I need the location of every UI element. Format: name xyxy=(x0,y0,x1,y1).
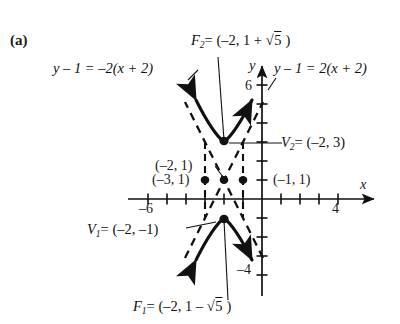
vertex-bottom-dot xyxy=(219,215,228,223)
focus-top-radical: √5 xyxy=(266,32,282,48)
left-point-label: (–3, 1) xyxy=(152,172,189,188)
vertex-bottom-equation: = (–2, –1) xyxy=(101,221,159,237)
y-tick-label-6: 6 xyxy=(245,78,252,94)
vertex-bottom-symbol: V xyxy=(87,221,96,237)
focus-top-equation-post: ) xyxy=(282,32,290,48)
leader-lines xyxy=(186,57,282,300)
focus-top-symbol: F xyxy=(191,32,200,48)
right-aux-dot xyxy=(239,176,248,184)
x-tick-label-4: 4 xyxy=(332,201,339,217)
center-dot xyxy=(220,176,229,184)
y-axis-label: y xyxy=(249,57,255,74)
right-point-label: (–1, 1) xyxy=(273,172,310,188)
focus-bottom-label: F1= (–2, 1 – √5 ) xyxy=(133,299,231,316)
focus-bottom-symbol: F xyxy=(133,298,142,314)
y-axis xyxy=(257,66,268,296)
x-tick-label-neg6: –6 xyxy=(139,201,153,217)
point-markers xyxy=(201,137,248,223)
x-axis-label: x xyxy=(360,176,366,193)
y-tick-label-neg4: –4 xyxy=(237,262,251,278)
focus-bottom-radicand: 5 xyxy=(215,298,223,314)
focus-top-radicand: 5 xyxy=(274,32,282,48)
vertex-top-equation: = (–2, 3) xyxy=(295,134,345,150)
vertex-top-label: V2= (–2, 3) xyxy=(281,135,345,152)
asymptote-right-label: y – 1 = 2(x + 2) xyxy=(274,61,367,76)
hyperbola-figure: (a) F2= (–2, 1 + √5 ) y – 1 = –2(x + 2) … xyxy=(0,0,400,324)
leader-focus-bottom xyxy=(224,220,228,300)
leader-focus-top xyxy=(218,57,224,140)
focus-bottom-equation-post: ) xyxy=(223,298,231,314)
focus-top-label: F2= (–2, 1 + √5 ) xyxy=(191,33,290,50)
vertex-top-symbol: V xyxy=(281,134,290,150)
vertex-bottom-label: V1= (–2, –1) xyxy=(87,222,158,239)
focus-bottom-equation-pre: = (–2, 1 – xyxy=(147,298,207,314)
panel-label: (a) xyxy=(10,32,28,49)
vertex-top-dot xyxy=(219,137,228,145)
asymptote-left-label: y – 1 = –2(x + 2) xyxy=(53,61,153,76)
leader-asymptote-left xyxy=(188,70,198,80)
leader-asymptote-right xyxy=(268,78,276,90)
focus-top-equation-pre: = (–2, 1 + xyxy=(205,32,266,48)
focus-bottom-radical: √5 xyxy=(207,298,223,314)
left-aux-dot xyxy=(201,176,210,184)
